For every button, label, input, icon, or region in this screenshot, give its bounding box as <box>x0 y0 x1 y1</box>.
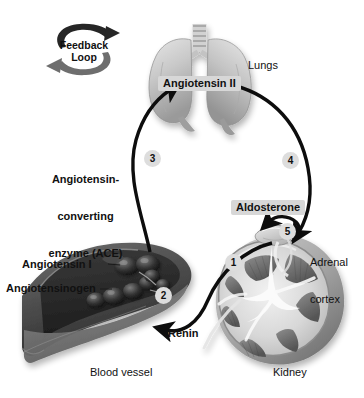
feedback-loop-label: Feedback Loop <box>56 40 112 63</box>
step-number-5: 5 <box>279 223 296 240</box>
ace-line-1: Angiotensin- <box>33 173 138 185</box>
angiotensin-i-label: Angiotensin I <box>22 258 92 270</box>
renin-label: Renin <box>168 327 199 339</box>
step-number-4: 4 <box>282 152 299 169</box>
aldosterone-label: Aldosterone <box>231 200 305 215</box>
step-number-2: 2 <box>155 287 172 304</box>
step-number-1: 1 <box>225 254 242 271</box>
step-number-3: 3 <box>144 150 161 167</box>
adrenal-cortex-label: Adrenal cortex <box>310 231 348 330</box>
raas-diagram: Feedback Loop Angiotensin II Lungs Angio… <box>0 0 364 398</box>
lungs-label: Lungs <box>248 59 278 71</box>
ace-line-3: enzyme (ACE) <box>33 247 138 259</box>
adrenal-cortex-line-1: Adrenal <box>310 256 348 268</box>
feedback-loop-line-2: Loop <box>56 52 112 64</box>
angiotensinogen-label: Angiotensinogen <box>6 282 96 294</box>
ace-line-2: converting <box>33 210 138 222</box>
adrenal-cortex-line-2: cortex <box>310 293 348 305</box>
feedback-loop-line-1: Feedback <box>56 40 112 52</box>
angiotensin-ii-label: Angiotensin II <box>158 76 241 91</box>
kidney-label: Kidney <box>273 366 307 378</box>
blood-vessel-label: Blood vessel <box>90 366 152 378</box>
